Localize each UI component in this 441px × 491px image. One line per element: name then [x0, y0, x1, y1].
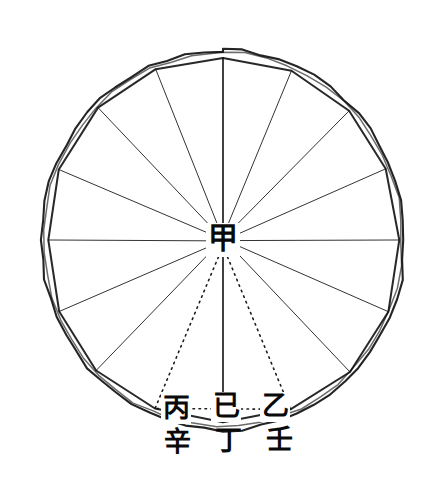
dotted-radius	[155, 246, 223, 409]
radius-spoke	[48, 240, 222, 241]
radius-spoke	[224, 239, 350, 372]
radius-spoke	[59, 241, 222, 312]
radius-spoke	[59, 170, 223, 240]
radius-spoke	[224, 240, 389, 312]
figure-canvas: 甲丙已乙辛丁壬	[0, 0, 441, 491]
upper-label-2: 乙	[262, 390, 289, 421]
radius-spoke	[223, 169, 386, 241]
lower-label-0: 辛	[164, 426, 191, 457]
radius-spoke	[223, 111, 349, 239]
radius-spoke	[224, 240, 399, 241]
lower-label-1: 丁	[215, 425, 242, 456]
lower-label-2: 壬	[266, 424, 293, 455]
radius-spoke	[222, 71, 292, 240]
radius-spoke	[96, 240, 222, 370]
dotted-radius	[223, 246, 291, 409]
upper-label-0: 丙	[163, 392, 190, 423]
geometry-diagram: 甲丙已乙辛丁壬	[0, 0, 441, 491]
radius-spoke	[98, 108, 224, 241]
upper-label-1: 已	[213, 390, 240, 421]
character-labels-group: 甲丙已乙辛丁壬	[161, 220, 293, 457]
center-label-jia: 甲	[208, 220, 238, 255]
